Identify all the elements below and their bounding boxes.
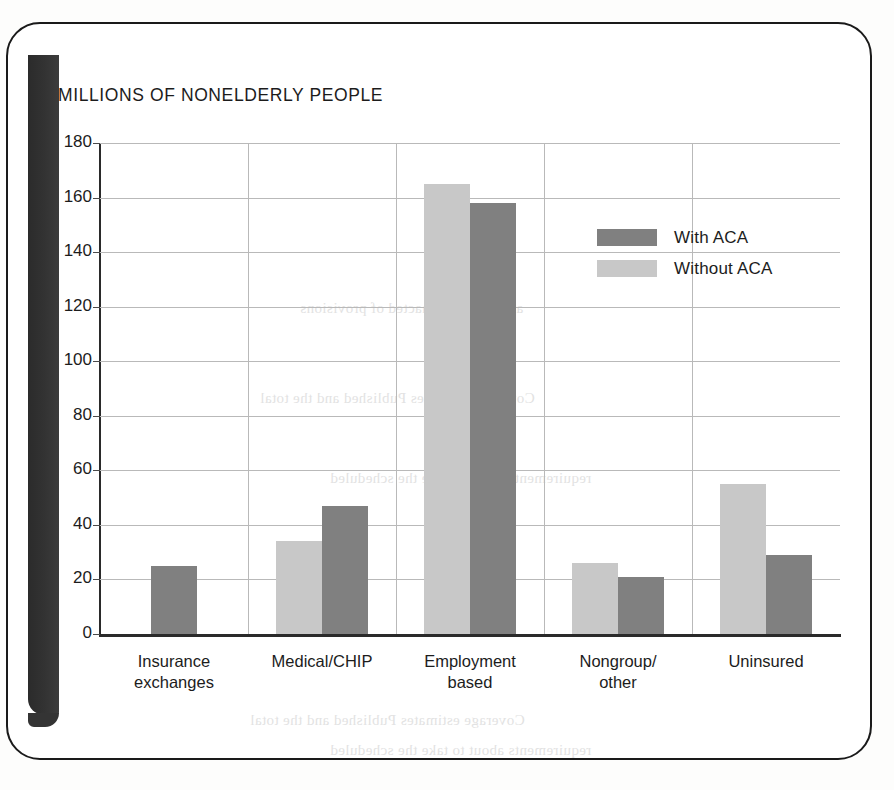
- y-axis-tick: [93, 307, 100, 308]
- y-axis-tick-label: 120: [46, 296, 92, 316]
- gridline-horizontal: [100, 143, 840, 144]
- y-axis-tick: [93, 634, 100, 635]
- plot-area: [100, 143, 840, 634]
- x-axis-label-line: Uninsured: [676, 651, 856, 672]
- bar-with-aca: [470, 203, 516, 634]
- legend-label: Without ACA: [674, 259, 773, 279]
- legend-swatch: [597, 260, 657, 277]
- y-axis-tick: [93, 416, 100, 417]
- bar-with-aca: [151, 566, 197, 634]
- legend-item-with-aca: With ACA: [597, 222, 773, 253]
- y-axis-tick: [93, 198, 100, 199]
- gridline-vertical: [396, 143, 397, 634]
- legend-swatch: [597, 229, 657, 246]
- y-axis-tick: [93, 361, 100, 362]
- bar-without-aca: [720, 484, 766, 634]
- y-axis-tick: [93, 579, 100, 580]
- y-axis-tick-labels: 180160140120100806040200: [44, 143, 92, 634]
- y-axis-tick: [93, 143, 100, 144]
- bar-without-aca: [276, 541, 322, 634]
- y-axis-tick: [93, 470, 100, 471]
- x-axis-category-label: Uninsured: [676, 651, 856, 672]
- x-axis-label-line: other: [528, 672, 708, 693]
- chart-legend: With ACAWithout ACA: [597, 222, 773, 284]
- y-axis-tick-label: 160: [46, 187, 92, 207]
- bar-with-aca: [618, 577, 664, 634]
- y-axis-tick: [93, 525, 100, 526]
- gridline-vertical: [248, 143, 249, 634]
- y-axis-tick-label: 80: [46, 405, 92, 425]
- gridline-vertical: [692, 143, 693, 634]
- y-axis-tick-label: 20: [46, 568, 92, 588]
- y-axis-tick-label: 140: [46, 241, 92, 261]
- bar-with-aca: [766, 555, 812, 634]
- y-axis-line: [99, 143, 101, 635]
- gridline-vertical: [544, 143, 545, 634]
- y-axis-tick: [93, 252, 100, 253]
- bar-chart: MILLIONS OF NONELDERLY PEOPLE 1801601401…: [0, 0, 894, 790]
- y-axis-tick-label: 0: [46, 623, 92, 643]
- gridline-horizontal: [100, 198, 840, 199]
- chart-title: MILLIONS OF NONELDERLY PEOPLE: [58, 85, 383, 106]
- y-axis-tick-label: 100: [46, 350, 92, 370]
- x-axis-label-line: exchanges: [84, 672, 264, 693]
- y-axis-tick-label: 60: [46, 459, 92, 479]
- y-axis-tick-label: 40: [46, 514, 92, 534]
- bar-with-aca: [322, 506, 368, 634]
- bar-without-aca: [424, 184, 470, 634]
- legend-item-without-aca: Without ACA: [597, 253, 773, 284]
- y-axis-tick-label: 180: [46, 132, 92, 152]
- scanned-page: and the 2010 enacted of provisions Cover…: [0, 0, 894, 790]
- bar-without-aca: [572, 563, 618, 634]
- legend-label: With ACA: [674, 228, 748, 248]
- x-axis-line: [99, 634, 841, 637]
